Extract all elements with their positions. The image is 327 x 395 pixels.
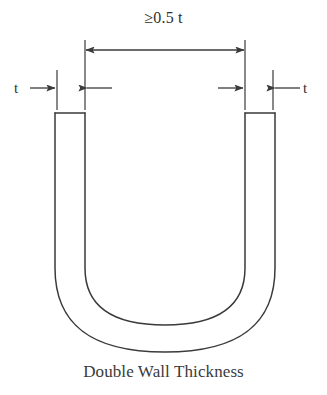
u-tube-outline [55, 113, 275, 352]
right-thickness-label: t [303, 81, 307, 96]
left-thickness-label: t [14, 81, 18, 96]
double-wall-thickness-figure: ≥0.5 t t t Double Wall Thickness [0, 0, 327, 395]
tube-outer-contour [55, 113, 275, 352]
figure-caption: Double Wall Thickness [0, 363, 327, 380]
tube-inner-contour [85, 113, 245, 325]
u-tube-diagram [0, 0, 327, 395]
inner-width-label: ≥0.5 t [0, 10, 327, 26]
